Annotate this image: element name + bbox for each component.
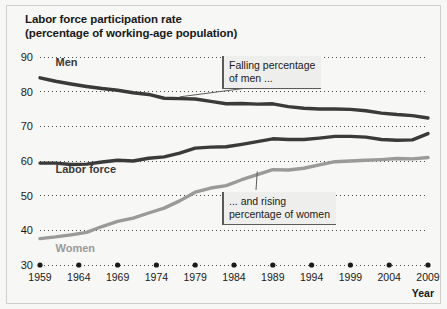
x-axis-tick-1984: 1984 bbox=[222, 271, 246, 283]
y-axis-tick-30: 30 bbox=[21, 259, 33, 271]
x-axis-marker-1984 bbox=[231, 262, 236, 267]
annotation-women-line-2: percentage of women bbox=[229, 208, 330, 221]
y-axis-tick-labels: 30405060708090 bbox=[21, 51, 33, 271]
x-axis-tick-1974: 1974 bbox=[145, 271, 169, 283]
y-axis-tick-60: 60 bbox=[21, 155, 33, 167]
chart-figure: Labor force participation rate (percenta… bbox=[0, 0, 447, 309]
annotation-women-line-1: ... and rising bbox=[229, 195, 330, 208]
x-axis-marker-1959 bbox=[37, 262, 42, 267]
x-axis-tick-1969: 1969 bbox=[106, 271, 130, 283]
y-axis-tick-80: 80 bbox=[21, 86, 33, 98]
annotation-men-line-2: of men ... bbox=[229, 72, 315, 85]
x-axis-tick-2009: 2009 bbox=[416, 271, 440, 283]
x-axis-marker-1974 bbox=[154, 262, 159, 267]
y-axis-tick-70: 70 bbox=[21, 120, 33, 132]
y-axis-tick-50: 50 bbox=[21, 190, 33, 202]
x-axis-tick-1964: 1964 bbox=[67, 271, 91, 283]
x-axis-caption: Year bbox=[412, 287, 434, 299]
x-axis-marker-2004 bbox=[387, 262, 392, 267]
annotation-men-line-1: Falling percentage bbox=[229, 59, 315, 72]
y-axis-tick-40: 40 bbox=[21, 224, 33, 236]
x-axis-marker-1979 bbox=[193, 262, 198, 267]
x-axis-tick-1989: 1989 bbox=[261, 271, 285, 283]
x-axis-marker-1999 bbox=[348, 262, 353, 267]
x-axis-tick-1994: 1994 bbox=[300, 271, 324, 283]
y-axis-tick-90: 90 bbox=[21, 51, 33, 63]
x-axis-marker-2009 bbox=[425, 262, 430, 267]
x-axis-marker-1969 bbox=[115, 262, 120, 267]
annotation-men-callout: Falling percentage of men ... bbox=[222, 56, 321, 89]
x-axis-marker-1964 bbox=[76, 262, 81, 267]
x-axis-tick-1999: 1999 bbox=[339, 271, 363, 283]
leader-line-men bbox=[180, 88, 247, 97]
x-axis-tick-2004: 2004 bbox=[378, 271, 402, 283]
series-label-women: Women bbox=[56, 242, 96, 254]
annotation-women-callout: ... and rising percentage of women bbox=[222, 192, 336, 225]
x-axis-marker-1994 bbox=[309, 262, 314, 267]
series-label-labor-force: Labor force bbox=[56, 163, 117, 175]
x-axis-tick-1979: 1979 bbox=[184, 271, 208, 283]
x-axis-marker-1989 bbox=[270, 262, 275, 267]
x-axis-tick-1959: 1959 bbox=[28, 271, 52, 283]
x-axis-tick-labels: 1959196419691974197919841989199419992004… bbox=[28, 271, 440, 283]
line-chart-plot: 30405060708090 1959196419691974197919841… bbox=[0, 0, 447, 309]
series-label-men: Men bbox=[56, 56, 78, 68]
